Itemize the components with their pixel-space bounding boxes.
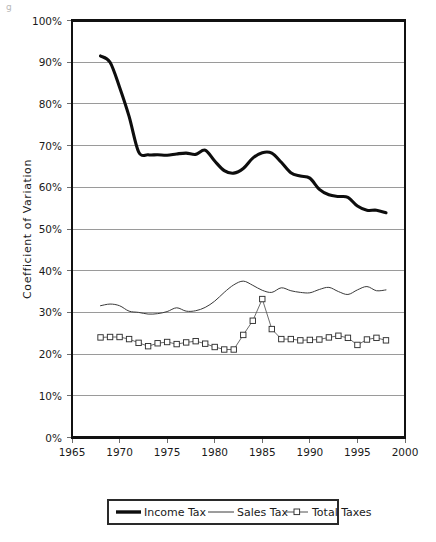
y-tick-label-0: 0% [45, 432, 62, 444]
x-tick-label-1965: 1965 [59, 446, 86, 458]
y-tick-label-30: 30% [39, 306, 62, 318]
legend-label-total-taxes: Total Taxes [311, 506, 372, 519]
y-axis-title: Coefficient of Variation [21, 159, 34, 299]
y-tick-label-80: 80% [39, 98, 62, 110]
total-taxes-marker [288, 336, 293, 341]
total-taxes-marker [193, 338, 198, 343]
x-tick-label-1975: 1975 [154, 446, 181, 458]
x-tick-label-1990: 1990 [297, 446, 324, 458]
total-taxes-marker [174, 341, 179, 346]
total-taxes-marker [250, 318, 255, 323]
y-tick-label-100: 100% [32, 15, 62, 27]
chart-figure: g 100% 90% 80% [0, 0, 436, 542]
x-tick-label-1970: 1970 [106, 446, 133, 458]
coefficient-of-variation-line-chart: g 100% 90% 80% [0, 0, 436, 542]
y-tick-label-70: 70% [39, 140, 62, 152]
total-taxes-marker [136, 340, 141, 345]
total-taxes-marker [317, 337, 322, 342]
total-taxes-marker [183, 340, 188, 345]
legend-label-sales-tax: Sales Tax [237, 506, 288, 519]
total-taxes-marker [279, 336, 284, 341]
total-taxes-marker [260, 296, 265, 301]
y-tick-label-40: 40% [39, 265, 62, 277]
y-tick-label-60: 60% [39, 181, 62, 193]
total-taxes-marker [164, 339, 169, 344]
x-tick-label-2000: 2000 [392, 446, 419, 458]
total-taxes-marker [222, 347, 227, 352]
y-tick-label-90: 90% [39, 56, 62, 68]
total-taxes-marker [383, 338, 388, 343]
legend: Income Tax Sales Tax Total Taxes [108, 500, 372, 524]
corner-artifact-text: g [6, 2, 12, 12]
y-tick-label-10: 10% [39, 390, 62, 402]
total-taxes-marker [155, 341, 160, 346]
total-taxes-marker [364, 337, 369, 342]
legend-label-income-tax: Income Tax [144, 506, 207, 519]
legend-marker-total-taxes [294, 509, 300, 515]
total-taxes-marker [241, 332, 246, 337]
total-taxes-marker [117, 334, 122, 339]
y-tick-label-20: 20% [39, 348, 62, 360]
x-tick-label-1995: 1995 [344, 446, 371, 458]
total-taxes-marker [298, 338, 303, 343]
total-taxes-marker [336, 333, 341, 338]
total-taxes-marker [145, 343, 150, 348]
total-taxes-marker [326, 335, 331, 340]
total-taxes-marker [126, 336, 131, 341]
y-tick-label-50: 50% [39, 223, 62, 235]
x-tick-label-1980: 1980 [201, 446, 228, 458]
total-taxes-marker [269, 326, 274, 331]
total-taxes-marker [203, 341, 208, 346]
total-taxes-marker [307, 337, 312, 342]
total-taxes-marker [231, 347, 236, 352]
total-taxes-marker [355, 342, 360, 347]
total-taxes-marker [107, 334, 112, 339]
total-taxes-marker [212, 344, 217, 349]
total-taxes-marker [98, 335, 103, 340]
x-tick-label-1985: 1985 [249, 446, 276, 458]
total-taxes-marker [345, 335, 350, 340]
total-taxes-marker [374, 335, 379, 340]
